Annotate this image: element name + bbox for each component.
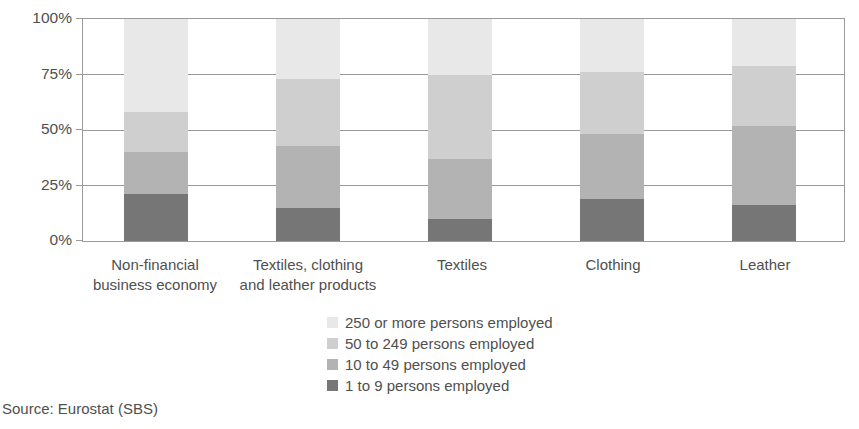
- chart-legend: 250 or more persons employed 50 to 249 p…: [327, 312, 657, 396]
- x-label-line2: and leather products: [228, 275, 388, 295]
- x-label-leather: Leather: [685, 255, 845, 275]
- bar-segment-textiles-s2: [428, 75, 492, 159]
- x-label-non-financial-business-economy: Non-financial business economy: [75, 255, 235, 295]
- bar-segment-clothing-s3: [580, 19, 644, 72]
- bar-segment-textiles-clothing-and-leather-products-s0: [276, 208, 340, 241]
- y-tick-label-50: 50%: [0, 121, 72, 137]
- x-label-line1: Non-financial: [75, 255, 235, 275]
- bar-segment-textiles-clothing-and-leather-products-s3: [276, 19, 340, 79]
- x-label-clothing: Clothing: [533, 255, 693, 275]
- x-label-line1: Leather: [685, 255, 845, 275]
- plot-area: [82, 18, 845, 242]
- x-label-textiles: Textiles: [382, 255, 542, 275]
- bar-segment-clothing-s0: [580, 199, 644, 241]
- legend-item-10-to-49: 10 to 49 persons employed: [327, 354, 657, 375]
- source-note: Source: Eurostat (SBS): [2, 400, 158, 417]
- bar-segment-non-financial-business-economy-s2: [124, 112, 188, 152]
- bar-segment-clothing-s2: [580, 72, 644, 134]
- legend-swatch-10-to-49: [327, 359, 338, 370]
- bar-segment-textiles-clothing-and-leather-products-s1: [276, 146, 340, 208]
- bar-non-financial-business-economy[interactable]: [124, 19, 188, 241]
- bar-segment-textiles-s1: [428, 159, 492, 219]
- bar-textiles[interactable]: [428, 19, 492, 241]
- bar-segment-non-financial-business-economy-s1: [124, 152, 188, 194]
- x-label-line1: Textiles, clothing: [228, 255, 388, 275]
- bar-clothing[interactable]: [580, 19, 644, 241]
- y-tick-label-25: 25%: [0, 177, 72, 193]
- legend-label-1-to-9: 1 to 9 persons employed: [345, 378, 509, 393]
- legend-swatch-50-to-249: [327, 338, 338, 349]
- bar-segment-leather-s3: [732, 19, 796, 66]
- bar-segment-clothing-s1: [580, 134, 644, 198]
- y-tick-label-100: 100%: [0, 10, 72, 26]
- bar-segment-non-financial-business-economy-s0: [124, 194, 188, 241]
- legend-label-10-to-49: 10 to 49 persons employed: [345, 357, 526, 372]
- y-tick-label-0: 0%: [0, 232, 72, 248]
- legend-label-50-to-249: 50 to 249 persons employed: [345, 336, 534, 351]
- y-tick-label-75: 75%: [0, 66, 72, 82]
- bar-textiles-clothing-and-leather-products[interactable]: [276, 19, 340, 241]
- x-label-textiles-clothing-and-leather-products: Textiles, clothing and leather products: [228, 255, 388, 295]
- bar-segment-textiles-s3: [428, 19, 492, 75]
- bar-leather[interactable]: [732, 19, 796, 241]
- bar-segment-leather-s2: [732, 66, 796, 126]
- stacked-bar-chart: 100% 75% 50% 25% 0% Non-financial busine…: [0, 0, 859, 429]
- x-label-line2: business economy: [75, 275, 235, 295]
- bar-segment-non-financial-business-economy-s3: [124, 19, 188, 112]
- legend-label-250-or-more: 250 or more persons employed: [345, 315, 553, 330]
- legend-swatch-250-or-more: [327, 317, 338, 328]
- bar-segment-leather-s0: [732, 205, 796, 241]
- bar-segment-textiles-s0: [428, 219, 492, 241]
- legend-swatch-1-to-9: [327, 380, 338, 391]
- legend-item-1-to-9: 1 to 9 persons employed: [327, 375, 657, 396]
- legend-item-250-or-more: 250 or more persons employed: [327, 312, 657, 333]
- bar-segment-leather-s1: [732, 126, 796, 206]
- x-label-line1: Clothing: [533, 255, 693, 275]
- legend-item-50-to-249: 50 to 249 persons employed: [327, 333, 657, 354]
- x-label-line1: Textiles: [382, 255, 542, 275]
- bar-segment-textiles-clothing-and-leather-products-s2: [276, 79, 340, 146]
